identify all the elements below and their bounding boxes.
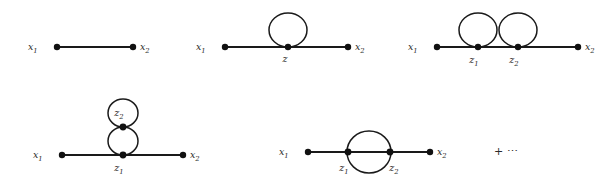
label-x2: x2 <box>355 41 365 55</box>
self-loop-circle-lower <box>108 127 138 155</box>
diagram-sunset-bubble: x1 x2 z1 z2 <box>279 131 447 176</box>
vertex-node-z2 <box>387 149 394 156</box>
label-x2: x2 <box>140 41 150 55</box>
diagram-stacked-tadpole: x1 x2 z1 z2 <box>33 99 200 176</box>
vertex-node-z2 <box>515 44 521 50</box>
label-z2: z2 <box>508 54 518 68</box>
vertex-node-z <box>285 44 291 50</box>
vertex-node-x2 <box>575 44 581 50</box>
label-x2: x2 <box>585 41 595 55</box>
label-x1: x1 <box>408 41 418 55</box>
label-z2: z2 <box>388 162 398 176</box>
vertex-node-x2 <box>345 44 351 50</box>
self-loop-circle <box>269 13 307 47</box>
vertex-node-x1 <box>59 152 65 158</box>
vertex-node-z1 <box>120 152 127 159</box>
diagram-one-loop-tadpole: x1 x2 z <box>196 13 365 64</box>
vertex-node-x1 <box>305 149 311 155</box>
diagram-canvas: x1 x2 x1 x2 z <box>0 0 606 187</box>
label-x1: x1 <box>196 41 206 55</box>
label-z2: z2 <box>113 107 123 121</box>
vertex-node-x1 <box>222 44 228 50</box>
vertex-node-x1 <box>434 44 440 50</box>
label-x2: x2 <box>437 146 447 160</box>
diagram-figure: x1 x2 x1 x2 z <box>0 0 606 187</box>
label-z1: z1 <box>468 54 478 68</box>
vertex-node-z2 <box>120 124 127 131</box>
label-x2: x2 <box>190 149 200 163</box>
vertex-node-x2 <box>130 44 136 50</box>
vertex-node-x1 <box>54 44 60 50</box>
self-loop-circle-z2 <box>499 13 537 47</box>
self-loop-circle-z1 <box>459 13 497 47</box>
label-x1: x1 <box>33 149 43 163</box>
label-z1: z1 <box>338 162 348 176</box>
diagram-tree-propagator: x1 x2 <box>28 41 150 55</box>
label-x1: x1 <box>279 146 289 160</box>
vertex-node-x2 <box>180 152 186 158</box>
vertex-node-z1 <box>475 44 481 50</box>
label-z1: z1 <box>113 162 123 176</box>
continuation-ellipsis: + ⋯ <box>494 145 518 158</box>
vertex-node-z1 <box>345 149 352 156</box>
label-x1: x1 <box>28 41 38 55</box>
diagram-two-loop-double-tadpole: x1 x2 z1 z2 <box>408 13 595 68</box>
vertex-node-x2 <box>427 149 433 155</box>
label-z: z <box>281 53 288 64</box>
